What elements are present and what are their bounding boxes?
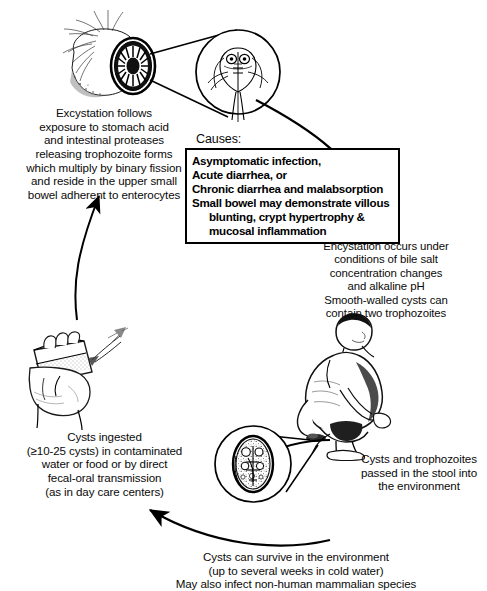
- causes-line: Asymptomatic infection,: [192, 154, 393, 168]
- causes-line: Small bowel may demonstrate villous: [192, 196, 393, 210]
- encystation-text: Encystation occurs under conditions of b…: [288, 240, 484, 321]
- excystation-text: Excystation follows exposure to stomach …: [6, 106, 202, 202]
- arrow-environment-to-ingestion: [150, 510, 330, 546]
- causes-line: mucosal inflammation: [192, 224, 393, 238]
- causes-line: blunting, crypt hypertrophy &: [192, 210, 393, 224]
- causes-box: Asymptomatic infection, Acute diarrhea, …: [185, 148, 400, 244]
- arrow-ingestion-to-excystation: [75, 196, 99, 320]
- causes-line: Acute diarrhea, or: [192, 168, 393, 182]
- cyst-magnified-illustration: [215, 426, 291, 502]
- hand-holding-cup-illustration: [29, 327, 128, 430]
- survive-environment-text: Cysts can survive in the environment (up…: [105, 550, 487, 591]
- intestine-cross-section-illustration: [63, 10, 155, 97]
- passed-in-stool-text: Cysts and trophozoites passed in the sto…: [352, 452, 486, 493]
- cysts-ingested-text: Cysts ingested (≥10-25 cysts) in contami…: [2, 430, 207, 498]
- causes-line: Chronic diarrhea and malabsorption: [192, 182, 393, 196]
- causes-label: Causes:: [196, 132, 316, 147]
